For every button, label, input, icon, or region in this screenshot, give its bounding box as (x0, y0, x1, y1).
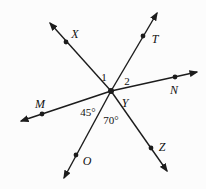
geometry-figure: XTNMOZY1245°70° (0, 0, 206, 189)
point-label-Z: Z (159, 140, 166, 154)
angle-label-angle-45: 45° (80, 106, 95, 118)
angle-label-angle-1: 1 (101, 71, 107, 83)
point-label-O: O (83, 154, 92, 168)
point-label-N: N (169, 83, 179, 97)
point-Z (149, 146, 154, 151)
point-M (40, 112, 45, 117)
angle-label-angle-70: 70° (103, 114, 118, 126)
point-O (74, 153, 79, 158)
point-label-M: M (34, 97, 46, 111)
angle-label-angle-2: 2 (124, 75, 130, 87)
point-T (141, 34, 146, 39)
point-X (64, 40, 69, 45)
vertex-point (108, 88, 114, 94)
intersecting-lines-diagram: XTNMOZY1245°70° (0, 0, 206, 189)
point-label-X: X (70, 27, 79, 41)
point-N (173, 75, 178, 80)
